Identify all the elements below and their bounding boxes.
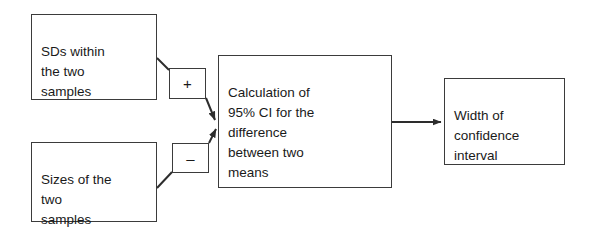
node-width-label: Width of confidence interval (454, 106, 564, 166)
node-calculation-label: Calculation of 95% CI for the difference… (228, 83, 391, 183)
minus-operator: – (172, 143, 209, 173)
plus-operator-symbol: + (183, 76, 192, 91)
edge-minus-to-calculation (209, 129, 216, 143)
node-sizes-of-samples: Sizes of the two samples (31, 142, 157, 222)
plus-operator: + (169, 68, 206, 99)
edge-sds-to-plus (157, 58, 169, 70)
node-sizes-label: Sizes of the two samples (41, 170, 156, 230)
node-calculation-of-ci: Calculation of 95% CI for the difference… (218, 55, 392, 188)
node-sds-within-samples: SDs within the two samples (31, 14, 157, 100)
edge-plus-to-calculation (206, 98, 215, 120)
flowchart-diagram: SDs within the two samples Sizes of the … (0, 0, 593, 237)
edge-sizes-to-minus (157, 172, 172, 188)
minus-operator-symbol: – (186, 151, 194, 166)
node-sds-label: SDs within the two samples (41, 42, 156, 102)
node-width-of-confidence-interval: Width of confidence interval (444, 78, 565, 165)
